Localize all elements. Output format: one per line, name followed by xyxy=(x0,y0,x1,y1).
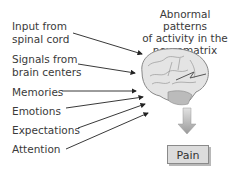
brain-icon xyxy=(142,49,209,105)
input-arrows xyxy=(62,33,148,149)
down-arrow-icon xyxy=(178,108,196,134)
pain-box: Pain xyxy=(167,145,209,164)
